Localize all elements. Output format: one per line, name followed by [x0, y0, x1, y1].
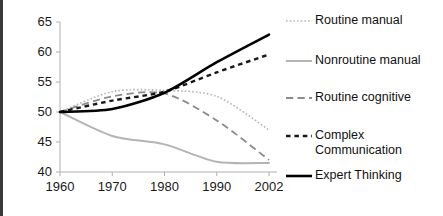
- series-line-2: [60, 92, 269, 160]
- legend-line-swatch-icon: [286, 14, 312, 28]
- y-tick-label: 40: [26, 165, 52, 178]
- x-tick-label: 1990: [194, 180, 240, 193]
- chart-legend: Routine manualNonroutine manualRoutine c…: [286, 0, 443, 216]
- legend-item-3[interactable]: Complex Communication: [286, 128, 443, 158]
- x-tick-label: 1960: [37, 180, 83, 193]
- series-line-1: [60, 112, 269, 163]
- y-tick-label: 55: [26, 75, 52, 88]
- legend-line-swatch-icon: [286, 129, 312, 143]
- legend-line-swatch-icon: [286, 169, 312, 183]
- chart-plot-area: 404550556065 19601970198019902002: [3, 0, 283, 216]
- chart-figure: 404550556065 19601970198019902002 Routin…: [0, 0, 443, 216]
- legend-item-label: Routine manual: [315, 13, 403, 28]
- legend-line-swatch-icon: [286, 54, 312, 68]
- legend-item-label: Complex Communication: [315, 128, 402, 158]
- legend-item-1[interactable]: Nonroutine manual: [286, 53, 443, 68]
- legend-item-4[interactable]: Expert Thinking: [286, 168, 443, 183]
- y-tick-label: 65: [26, 15, 52, 28]
- x-tick-label: 1970: [89, 180, 135, 193]
- legend-item-label: Expert Thinking: [315, 168, 402, 183]
- legend-item-0[interactable]: Routine manual: [286, 13, 443, 28]
- legend-item-label: Nonroutine manual: [315, 53, 421, 68]
- y-tick-label: 50: [26, 105, 52, 118]
- series-line-4: [60, 35, 269, 112]
- legend-line-swatch-icon: [286, 91, 312, 105]
- y-tick-label: 45: [26, 135, 52, 148]
- y-tick-label: 60: [26, 45, 52, 58]
- legend-item-label: Routine cognitive: [315, 90, 411, 105]
- legend-item-2[interactable]: Routine cognitive: [286, 90, 443, 105]
- series-line-3: [60, 54, 269, 112]
- x-tick-label: 1980: [142, 180, 188, 193]
